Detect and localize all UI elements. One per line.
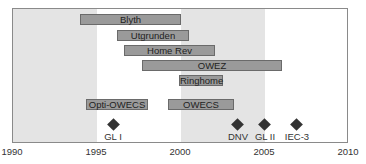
chart-plot-area: Blyth Utgrunden Home Rev OWEZ Ringhome O… [12,8,348,143]
milestone-label-gl-ii: GL II [255,131,275,142]
bar-ringhome: Ringhome [179,75,223,86]
x-tick-2000: 2000 [169,146,190,157]
bar-utgrunden: Utgrunden [117,30,189,41]
x-tick-1995: 1995 [85,146,106,157]
milestone-label-gl-i: GL I [104,131,122,142]
bar-home-rev: Home Rev [124,45,215,56]
shaded-band-1990-1995 [13,9,97,142]
milestone-marker-gl-i [107,118,120,131]
bar-owecs: OWECS [168,99,234,110]
bar-blyth: Blyth [80,14,181,25]
x-tick-2005: 2005 [253,146,274,157]
bar-owez: OWEZ [142,60,282,71]
milestone-label-dnv: DNV [228,131,248,142]
x-tick-1990: 1990 [1,146,22,157]
milestone-marker-iec-3 [290,118,303,131]
x-tick-2010: 2010 [337,146,358,157]
bar-opti-owecs: Opti-OWECS [86,99,148,110]
milestone-label-iec-3: IEC-3 [285,131,309,142]
